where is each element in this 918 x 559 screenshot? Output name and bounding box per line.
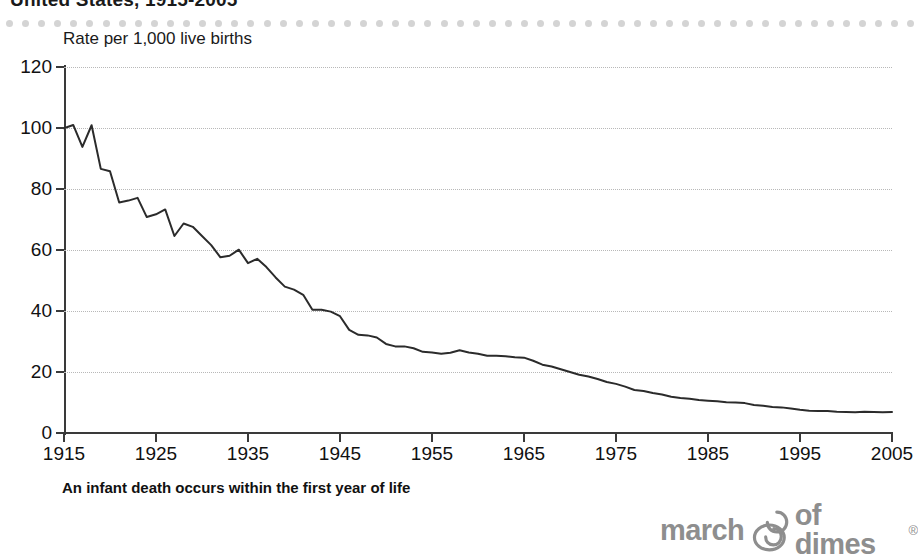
decorative-dot: [392, 20, 399, 27]
decorative-dot: [199, 20, 206, 27]
decorative-dot: [634, 20, 641, 27]
decorative-dot: [167, 20, 174, 27]
decorative-dot: [296, 20, 303, 27]
logo-word-march: march: [660, 516, 744, 545]
decorative-dot: [280, 20, 287, 27]
decorative-dot: [135, 20, 142, 27]
decorative-dot: [795, 20, 802, 27]
decorative-dot: [86, 20, 93, 27]
x-tick-label: 1935: [227, 443, 269, 465]
x-tick-mark: [615, 434, 617, 442]
x-tick-mark: [707, 434, 709, 442]
y-tick-label: 20: [31, 361, 52, 383]
decorative-dot: [859, 20, 866, 27]
decorative-dot: [505, 20, 512, 27]
decorative-dot: [70, 20, 77, 27]
x-tick-label: 1995: [779, 443, 821, 465]
y-tick-label: 60: [31, 239, 52, 261]
decorative-dot: [489, 20, 496, 27]
decorative-dot: [344, 20, 351, 27]
decorative-dot: [183, 20, 190, 27]
decorative-dot: [119, 20, 126, 27]
x-tick-mark: [155, 434, 157, 442]
decorative-dot: [537, 20, 544, 27]
decorative-dot: [585, 20, 592, 27]
x-tick-mark: [339, 434, 341, 442]
data-series-line: [64, 67, 892, 433]
decorative-dot: [907, 20, 914, 27]
x-tick-label: 1975: [595, 443, 637, 465]
decorative-dot: [264, 20, 271, 27]
decorative-dot: [762, 20, 769, 27]
decorative-dot: [521, 20, 528, 27]
y-axis-tick-labels: 020406080100120: [0, 0, 52, 559]
decorative-dot: [569, 20, 576, 27]
x-tick-label: 1965: [503, 443, 545, 465]
x-tick-label: 1955: [411, 443, 453, 465]
x-tick-mark: [431, 434, 433, 442]
decorative-dot: [231, 20, 238, 27]
x-tick-label: 1985: [687, 443, 729, 465]
x-tick-mark: [891, 434, 893, 442]
decorative-dot: [601, 20, 608, 27]
y-tick-mark: [56, 188, 64, 190]
x-tick-label: 1915: [43, 443, 85, 465]
y-tick-label: 100: [20, 117, 52, 139]
decorative-dot: [215, 20, 222, 27]
x-tick-label: 1945: [319, 443, 361, 465]
y-tick-mark: [56, 127, 64, 129]
decorative-dot: [746, 20, 753, 27]
decorative-dot: [811, 20, 818, 27]
decorative-dot: [457, 20, 464, 27]
y-tick-label: 0: [41, 422, 52, 444]
decorative-dot: [151, 20, 158, 27]
y-tick-label: 120: [20, 56, 52, 78]
march-of-dimes-logo: march of dimes ®: [660, 508, 918, 552]
decorative-dot: [103, 20, 110, 27]
decorative-dot: [875, 20, 882, 27]
mother-and-baby-icon: [747, 508, 793, 552]
decorative-dot: [312, 20, 319, 27]
y-tick-label: 80: [31, 178, 52, 200]
decorative-dot: [666, 20, 673, 27]
x-tick-mark: [247, 434, 249, 442]
y-tick-mark: [56, 66, 64, 68]
y-tick-label: 40: [31, 300, 52, 322]
decorative-dot: [843, 20, 850, 27]
y-axis-caption: Rate per 1,000 live births: [63, 29, 252, 49]
logo-trademark: ®: [908, 523, 918, 538]
decorative-dot-band: [0, 18, 918, 28]
logo-word-of-dimes: of dimes: [795, 501, 909, 559]
y-tick-mark: [56, 310, 64, 312]
decorative-dot: [779, 20, 786, 27]
decorative-dot: [553, 20, 560, 27]
decorative-dot: [408, 20, 415, 27]
decorative-dot: [682, 20, 689, 27]
decorative-dot: [891, 20, 898, 27]
y-tick-mark: [56, 249, 64, 251]
decorative-dot: [473, 20, 480, 27]
x-tick-mark: [523, 434, 525, 442]
decorative-dot: [714, 20, 721, 27]
decorative-dot: [827, 20, 834, 27]
decorative-dot: [698, 20, 705, 27]
decorative-dot: [328, 20, 335, 27]
x-tick-label: 1925: [135, 443, 177, 465]
decorative-dot: [618, 20, 625, 27]
decorative-dot: [247, 20, 254, 27]
x-tick-mark: [799, 434, 801, 442]
x-tick-label: 2005: [871, 443, 913, 465]
y-tick-mark: [56, 371, 64, 373]
decorative-dot: [730, 20, 737, 27]
decorative-dot: [424, 20, 431, 27]
footnote-text: An infant death occurs within the first …: [62, 479, 410, 496]
decorative-dot: [376, 20, 383, 27]
decorative-dot: [360, 20, 367, 27]
decorative-dot: [650, 20, 657, 27]
x-tick-mark: [63, 434, 65, 442]
decorative-dot: [441, 20, 448, 27]
decorative-dot: [54, 20, 61, 27]
infant-mortality-chart-page: United States, 1915-2005 Rate per 1,000 …: [0, 0, 918, 559]
